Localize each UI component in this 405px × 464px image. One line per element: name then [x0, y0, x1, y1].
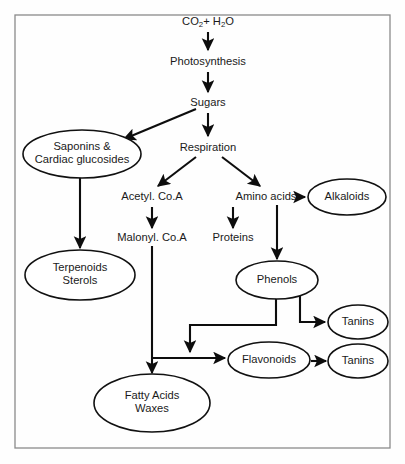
- node-label-alkaloids: Alkaloids: [325, 190, 370, 202]
- pathway-diagram: CO2+ H2OPhotosynthesisSugarsRespirationS…: [0, 0, 405, 464]
- nodes-layer: CO2+ H2OPhotosynthesisSugarsRespirationS…: [23, 15, 388, 432]
- node-label-terpenoids-line1: Terpenoids: [53, 261, 108, 273]
- node-tanins-upper[interactable]: Tanins: [328, 305, 388, 339]
- node-label-photosynthesis: Photosynthesis: [170, 55, 246, 67]
- node-label-sugars: Sugars: [190, 96, 226, 108]
- node-flavonoids[interactable]: Flavonoids: [228, 342, 310, 378]
- node-proteins[interactable]: Proteins: [212, 231, 253, 243]
- node-malonyl-coa[interactable]: Malonyl. Co.A: [117, 231, 187, 243]
- node-tanins-lower[interactable]: Tanins: [328, 344, 388, 378]
- node-alkaloids[interactable]: Alkaloids: [308, 179, 386, 215]
- node-photosynthesis[interactable]: Photosynthesis: [170, 55, 246, 67]
- edge-phenols-to-tanins-upper: [300, 295, 325, 322]
- edges-layer: [80, 32, 326, 373]
- node-label-proteins: Proteins: [212, 231, 253, 243]
- node-label-acetyl-coa: Acetyl. Co.A: [121, 190, 183, 202]
- node-label-flavonoids: Flavonoids: [242, 353, 297, 365]
- node-phenols[interactable]: Phenols: [236, 261, 318, 299]
- node-label-malonyl-coa: Malonyl. Co.A: [117, 231, 187, 243]
- diagram-frame: [15, 15, 390, 448]
- node-amino-acids[interactable]: Amino acids: [236, 190, 297, 202]
- pathway-canvas: CO2+ H2OPhotosynthesisSugarsRespirationS…: [0, 0, 405, 464]
- node-co2-h2o[interactable]: CO2+ H2O: [182, 15, 234, 29]
- node-label-respiration: Respiration: [180, 141, 237, 153]
- node-label-amino-acids: Amino acids: [236, 190, 297, 202]
- node-respiration[interactable]: Respiration: [180, 141, 237, 153]
- edge-respiration-to-amino: [222, 157, 260, 186]
- node-label-saponins-line2: Cardiac glucosides: [35, 153, 130, 165]
- node-label-tanins-lower: Tanins: [342, 354, 375, 366]
- node-saponins[interactable]: Saponins &Cardiac glucosides: [23, 130, 141, 178]
- node-acetyl-coa[interactable]: Acetyl. Co.A: [121, 190, 183, 202]
- node-label-fatty-acids-line2: Waxes: [135, 402, 169, 414]
- node-label-phenols: Phenols: [257, 273, 298, 285]
- node-sugars[interactable]: Sugars: [190, 96, 226, 108]
- edge-sugars-to-saponins: [124, 109, 196, 139]
- node-terpenoids[interactable]: TerpenoidsSterols: [25, 250, 135, 300]
- edge-respiration-to-acetyl: [158, 157, 196, 186]
- node-label-co2-h2o: CO2+ H2O: [182, 15, 234, 29]
- node-label-tanins-upper: Tanins: [342, 315, 375, 327]
- node-label-terpenoids-line2: Sterols: [63, 274, 98, 286]
- node-label-saponins-line1: Saponins &: [53, 140, 111, 152]
- node-fatty-acids[interactable]: Fatty AcidsWaxes: [94, 374, 210, 432]
- node-label-fatty-acids-line1: Fatty Acids: [125, 389, 180, 401]
